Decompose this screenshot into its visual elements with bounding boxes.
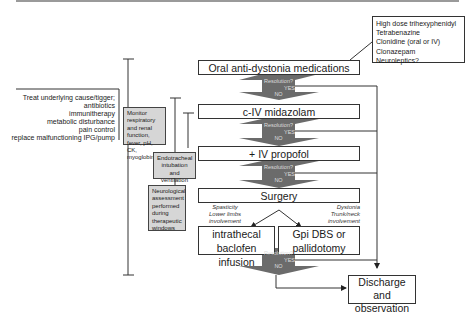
decision-3: Resolution? YES NO [262,164,295,184]
step-discharge: Discharge and observation [348,275,416,304]
step-propofol: + IV propofol [198,146,360,161]
med-item: Tetrabenazine [376,28,461,37]
monitor-box: Monitor respiratory and renal function, … [123,107,166,145]
med-item: Clonidine (oral or IV) [376,37,461,46]
med-item: High dose trihexyphenidyl [376,19,461,28]
treat-underlying-cause: Treat underlying cause/tigger; antibioti… [10,94,115,142]
decision-1: Resolution? YES NO [262,78,295,98]
intubation-box: Endotracheal intubation and ventilation [153,152,196,179]
additional-medications-box: High dose trihexyphenidyl Tetrabenazine … [372,16,465,63]
branch-right-label: Dystonia Trunk/neck involvement [310,204,360,225]
decision-2: Resolution? YES NO [262,122,295,142]
neuro-assessment-box: Neurological assessment performed during… [148,185,186,231]
step-midazolam: c-IV midazolam [198,104,360,119]
decision-4: Resolution? YES NO [262,250,295,270]
med-item: Neuroleptics? [376,56,461,65]
step-surgery: Surgery [198,188,360,203]
med-item: Clonazepam [376,47,461,56]
branch-left-label: Spasticity Lower limbs involvement [200,204,250,225]
step-oral-medications: Oral anti-dystonia medications [198,60,360,75]
